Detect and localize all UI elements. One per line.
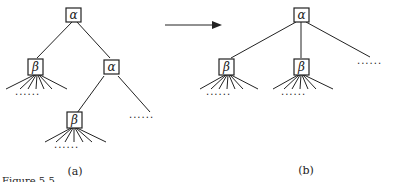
leaf-dots: ...... (15, 86, 40, 97)
node-label: β (297, 60, 305, 74)
node-label: β (222, 60, 230, 74)
tree-a: ...... ...... ...... α β α β (a) (6, 8, 154, 178)
node-label: α (69, 8, 77, 22)
tree-transformation-diagram: ...... ...... ...... α β α β (a) (0, 0, 395, 182)
node-label: α (297, 8, 305, 22)
node-label: β (31, 60, 39, 74)
node-label: α (107, 60, 115, 74)
caption-b: (b) (298, 164, 314, 177)
continuation-dots: ...... (357, 55, 382, 66)
caption-a: (a) (67, 165, 82, 178)
node-label: β (70, 113, 78, 127)
tree-b: ...... ...... ...... α β β (b) (200, 8, 382, 177)
transform-arrow-icon (165, 21, 222, 29)
figure-label-fragment: Figure 5.5 (2, 175, 55, 182)
continuation-dots: ...... (129, 109, 154, 120)
leaf-dots: ...... (281, 86, 306, 97)
leaf-dots: ...... (54, 139, 79, 150)
leaf-dots: ...... (206, 86, 231, 97)
